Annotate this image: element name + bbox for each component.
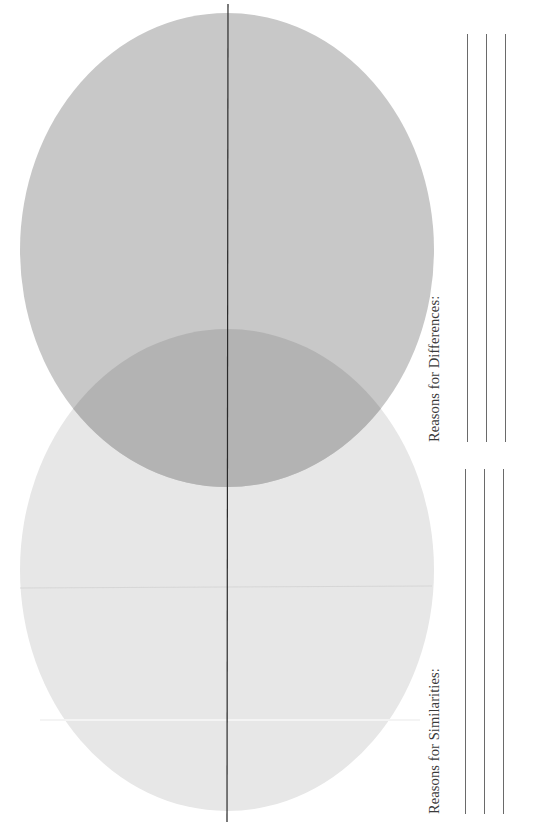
differences-write-line[interactable] bbox=[486, 34, 487, 442]
similarities-label: Reasons for Similarities: bbox=[426, 668, 443, 814]
similarities-write-line[interactable] bbox=[465, 469, 466, 814]
differences-write-line[interactable] bbox=[505, 34, 506, 442]
differences-write-line[interactable] bbox=[467, 34, 468, 442]
venn-diagram bbox=[0, 0, 551, 840]
similarities-write-line[interactable] bbox=[503, 469, 504, 814]
similarities-write-line[interactable] bbox=[484, 469, 485, 814]
differences-label: Reasons for Differences: bbox=[426, 296, 443, 442]
